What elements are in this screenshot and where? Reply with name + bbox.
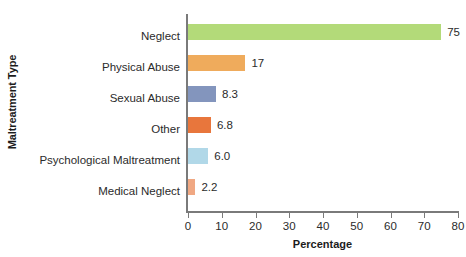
category-label-5: Medical Neglect	[10, 185, 180, 197]
x-axis-title: Percentage	[186, 238, 459, 250]
x-tick-mark-4	[323, 213, 324, 218]
x-tick-mark-5	[357, 213, 358, 218]
bar-value-5: 2.2	[201, 179, 217, 195]
x-tick-mark-3	[289, 213, 290, 218]
x-tick-mark-2	[256, 213, 257, 218]
x-tick-label-8: 80	[438, 220, 466, 232]
category-label-0: Neglect	[10, 30, 180, 42]
category-label-4: Psychological Maltreatment	[10, 154, 180, 166]
x-tick-mark-1	[222, 213, 223, 218]
category-label-2: Sexual Abuse	[10, 92, 180, 104]
bar-value-2: 8.3	[222, 86, 238, 102]
bar-neglect	[188, 24, 441, 40]
bar-chart: Maltreatment Type Neglect Physical Abuse…	[0, 0, 466, 257]
x-tick-mark-8	[458, 213, 459, 218]
bar-sexual-abuse	[188, 86, 216, 102]
x-tick-mark-6	[391, 213, 392, 218]
category-label-3: Other	[10, 123, 180, 135]
category-label-1: Physical Abuse	[10, 61, 180, 73]
x-tick-mark-7	[424, 213, 425, 218]
bar-value-1: 17	[251, 55, 264, 71]
bar-psychological-maltreatment	[188, 148, 208, 164]
bar-value-4: 6.0	[214, 148, 230, 164]
bar-medical-neglect	[188, 179, 195, 195]
bar-physical-abuse	[188, 55, 245, 71]
bar-other	[188, 117, 211, 133]
plot-area: 75 17 8.3 6.8 6.0 2.2	[188, 14, 458, 206]
bar-value-0: 75	[447, 24, 460, 40]
x-tick-mark-0	[188, 213, 189, 218]
category-label-group: Neglect Physical Abuse Sexual Abuse Othe…	[14, 14, 184, 206]
bar-value-3: 6.8	[217, 117, 233, 133]
